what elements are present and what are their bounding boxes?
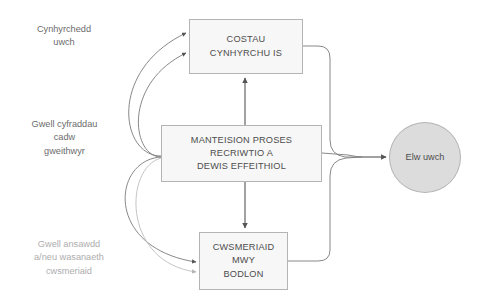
node-higher-profit: Elw uwch (389, 122, 461, 193)
node-satisfied-customers: CWSMERIAID MWY BODLON (199, 232, 288, 290)
node-benefits: MANTEISION PROSES RECRIWTIO A DEWIS EFFE… (161, 125, 322, 182)
label-retention: Gwell cyfraddau cadw gweithwyr (2, 118, 127, 158)
label-quality: Gwell ansawdd a/neu wasanaeth cwsmeriaid (2, 238, 136, 278)
label-productivity: Cynhyrchedd uwch (4, 23, 124, 50)
node-lower-costs: COSTAU CYNHYRCHU IS (189, 19, 303, 74)
diagram-canvas: COSTAU CYNHYRCHU IS MANTEISION PROSES RE… (0, 0, 480, 301)
